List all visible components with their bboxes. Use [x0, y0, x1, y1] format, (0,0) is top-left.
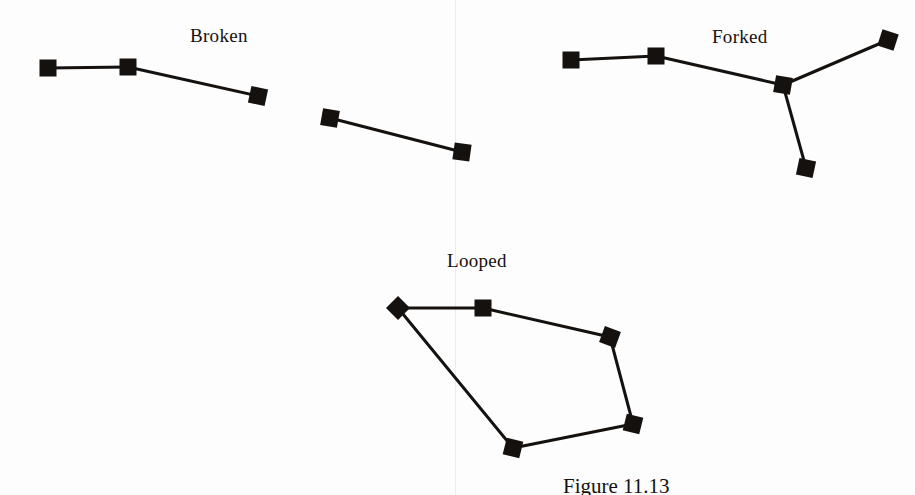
node-marker-broken-b1: [40, 60, 57, 77]
edge-looped-l2-l3: [483, 308, 610, 337]
group-label-forked: Forked: [712, 26, 768, 48]
edge-forked-f3-f4: [783, 40, 888, 85]
edge-forked-f2-f3: [656, 56, 783, 85]
node-marker-forked-f4: [877, 29, 898, 50]
edge-forked-f1-f2: [571, 56, 656, 60]
node-marker-forked-f1: [563, 52, 580, 69]
node-marker-broken-b5: [452, 142, 471, 161]
node-marker-broken-b3: [248, 86, 268, 106]
figure-diagram-canvas: [0, 0, 915, 495]
node-marker-looped-l2: [475, 300, 492, 317]
figure-container: Broken Forked Looped Figure 11.13: [0, 0, 915, 495]
group-label-broken: Broken: [190, 25, 248, 47]
node-marker-broken-b4: [320, 108, 340, 128]
node-marker-forked-f3: [773, 75, 793, 95]
edge-looped-l3-l4: [610, 337, 633, 424]
edge-broken-b4-b5: [330, 118, 462, 152]
edge-looped-l5-l1: [398, 308, 513, 448]
edge-broken-b2-b3: [128, 67, 258, 96]
edges-layer: [48, 40, 888, 448]
edge-looped-l4-l5: [513, 424, 633, 448]
group-label-looped: Looped: [447, 250, 507, 272]
node-marker-broken-b2: [120, 59, 137, 76]
node-marker-forked-f2: [648, 48, 665, 65]
figure-caption: Figure 11.13: [563, 474, 670, 495]
edge-forked-f3-f5: [783, 85, 806, 168]
edge-broken-b1-b2: [48, 67, 128, 68]
node-marker-looped-l4: [623, 414, 644, 435]
node-marker-looped-l3: [599, 326, 621, 348]
node-marker-forked-f5: [796, 158, 816, 178]
